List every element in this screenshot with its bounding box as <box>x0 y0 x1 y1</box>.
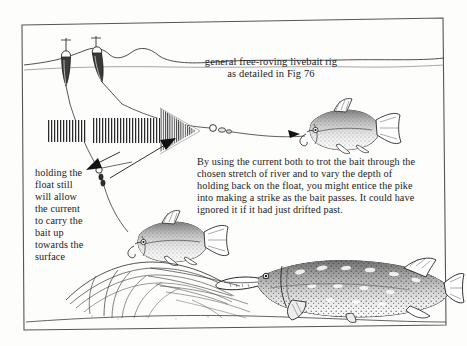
figure-illustration: general free-roving livebait rig as deta… <box>0 0 467 346</box>
annotation-title: general free-roving livebait rig as deta… <box>176 56 366 81</box>
annotation-left-caption: holding the float still will allow the c… <box>35 167 105 263</box>
annotation-body-paragraph: By using the current both to trot the ba… <box>197 156 425 216</box>
